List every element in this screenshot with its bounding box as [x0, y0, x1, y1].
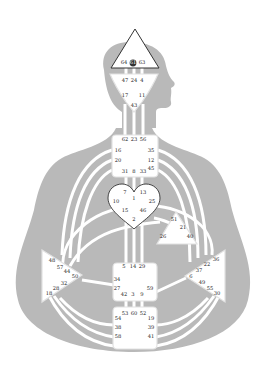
gate-27[interactable]: 27	[114, 285, 121, 291]
gate-50[interactable]: 50	[72, 273, 79, 279]
gate-38[interactable]: 38	[115, 324, 122, 330]
root-center[interactable]: 53 60 52 54 19 38 39 58 41	[113, 307, 157, 349]
gate-45[interactable]: 45	[148, 165, 155, 171]
gate-3[interactable]: 3	[131, 291, 134, 297]
gate-44[interactable]: 44	[64, 268, 71, 274]
gate-23[interactable]: 23	[131, 136, 138, 142]
gate-58[interactable]: 58	[115, 333, 122, 339]
gate-12[interactable]: 12	[148, 157, 155, 163]
gate-11[interactable]: 11	[139, 92, 146, 98]
gate-18[interactable]: 18	[46, 290, 53, 296]
gate-63[interactable]: 63	[139, 59, 146, 65]
gate-1[interactable]: 1	[132, 195, 135, 201]
gate-41[interactable]: 41	[148, 333, 155, 339]
gate-37[interactable]: 37	[196, 267, 203, 273]
gate-48[interactable]: 48	[49, 257, 56, 263]
gate-6[interactable]: 6	[189, 273, 192, 279]
gate-32[interactable]: 32	[61, 280, 68, 286]
gate-35[interactable]: 35	[148, 147, 155, 153]
gate-17[interactable]: 17	[122, 92, 129, 98]
gate-46[interactable]: 46	[140, 207, 147, 213]
gate-31[interactable]: 31	[122, 168, 129, 174]
gate-25[interactable]: 25	[149, 198, 156, 204]
gate-24[interactable]: 24	[131, 77, 138, 83]
gate-53[interactable]: 53	[122, 310, 129, 316]
gate-47[interactable]: 47	[122, 77, 129, 83]
gate-19[interactable]: 19	[148, 315, 155, 321]
gate-16[interactable]: 16	[115, 147, 122, 153]
gate-52[interactable]: 52	[140, 310, 147, 316]
gate-21[interactable]: 21	[180, 224, 187, 230]
gate-20[interactable]: 20	[115, 157, 122, 163]
gate-51[interactable]: 51	[171, 216, 178, 222]
gate-30[interactable]: 30	[214, 290, 221, 296]
gate-54[interactable]: 54	[115, 315, 122, 321]
gate-62[interactable]: 62	[122, 136, 129, 142]
gate-56[interactable]: 56	[140, 136, 147, 142]
gate-28[interactable]: 28	[53, 285, 60, 291]
gate-59[interactable]: 59	[147, 285, 154, 291]
gate-15[interactable]: 15	[122, 207, 129, 213]
gate-22[interactable]: 22	[204, 261, 211, 267]
gate-9[interactable]: 9	[140, 291, 143, 297]
gate-14[interactable]: 14	[130, 263, 137, 269]
gate-13[interactable]: 13	[140, 189, 147, 195]
gate-40[interactable]: 40	[187, 233, 194, 239]
gate-43[interactable]: 43	[131, 102, 138, 108]
gate-57[interactable]: 57	[57, 264, 64, 270]
gate-60[interactable]: 60	[131, 310, 138, 316]
gate-33[interactable]: 33	[140, 168, 147, 174]
gate-8[interactable]: 8	[132, 168, 135, 174]
throat-center[interactable]: 62 23 56 16 35 20 12 45 31 8 33	[112, 135, 158, 177]
gate-34[interactable]: 34	[114, 276, 121, 282]
gate-39[interactable]: 39	[148, 324, 155, 330]
gate-36[interactable]: 36	[213, 256, 220, 262]
gate-5[interactable]: 5	[122, 263, 125, 269]
gate-10[interactable]: 10	[113, 198, 120, 204]
gate-2[interactable]: 2	[132, 216, 135, 222]
gate-61[interactable]: 61	[130, 59, 137, 65]
bodygraph-chart: 64 61 63 47 24 4 17 11 43 62 23 56 16 35…	[0, 0, 267, 375]
sacral-center[interactable]: 5 14 29 34 27 59 42 3 9	[113, 263, 157, 301]
gate-29[interactable]: 29	[139, 263, 146, 269]
gate-26[interactable]: 26	[160, 233, 167, 239]
gate-49[interactable]: 49	[199, 279, 206, 285]
gate-64[interactable]: 64	[121, 59, 128, 65]
gate-42[interactable]: 42	[121, 291, 128, 297]
gate-7[interactable]: 7	[123, 189, 126, 195]
gate-55[interactable]: 55	[207, 285, 214, 291]
